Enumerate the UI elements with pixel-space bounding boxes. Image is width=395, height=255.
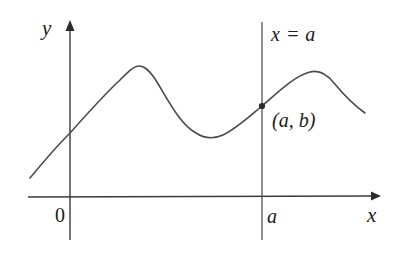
y-axis-arrowhead-icon — [66, 20, 75, 31]
x-axis-line — [28, 196, 371, 197]
x-axis-label: x — [367, 205, 376, 226]
point-coordinate-label: (a, b) — [272, 110, 315, 130]
figure-canvas: y x 0 a x = a (a, b) — [0, 0, 395, 255]
point-marker-a-b — [259, 103, 265, 109]
x-axis-tick-label-a: a — [267, 206, 277, 226]
y-axis-label: y — [42, 18, 51, 39]
vertical-line-equation-label: x = a — [271, 24, 316, 44]
x-axis-arrowhead-icon — [371, 192, 381, 201]
origin-label: 0 — [55, 205, 65, 225]
